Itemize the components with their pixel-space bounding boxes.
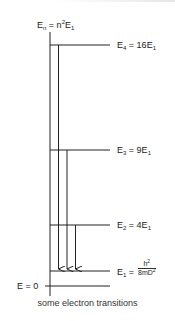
- level-label-e2: E2 = 4E1: [117, 220, 151, 230]
- diagram-caption: some electron transitions: [0, 298, 175, 308]
- level-label-e1: E1 =: [117, 267, 134, 277]
- level-label-e3: E3 = 9E1: [117, 145, 151, 155]
- fraction-denominator: 8mD2: [138, 269, 156, 277]
- zero-level-label: E = 0: [17, 281, 38, 291]
- axis-title-formula: En = n2E1: [37, 20, 74, 30]
- level-e1-fraction: h2 8mD2: [138, 260, 156, 277]
- level-label-e4: E4 = 16E1: [117, 40, 156, 50]
